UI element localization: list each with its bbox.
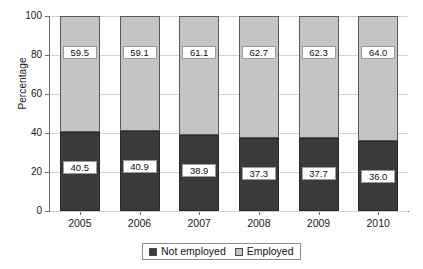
data-label-employed: 59.5 — [63, 46, 97, 59]
bar-segment-employed[interactable] — [60, 16, 100, 132]
gridline — [50, 133, 408, 134]
gridline — [50, 211, 408, 212]
bar-group[interactable]: 59.140.9 — [120, 16, 160, 211]
bar-group[interactable]: 59.540.5 — [60, 16, 100, 211]
x-tick-label: 2005 — [50, 218, 110, 229]
y-tick-label: 100 — [2, 11, 42, 21]
x-tick-label: 2008 — [229, 218, 289, 229]
bar-group[interactable]: 62.737.3 — [239, 16, 279, 211]
legend-label: Not employed — [161, 246, 226, 257]
data-label-employed: 59.1 — [123, 46, 157, 59]
data-label-not-employed: 37.3 — [242, 167, 276, 180]
data-label-not-employed: 37.7 — [302, 167, 336, 180]
data-label-employed: 64.0 — [361, 46, 395, 59]
bar-group[interactable]: 61.138.9 — [179, 16, 219, 211]
stacked-bar-chart: Percentage 020406080100 2005200620072008… — [0, 0, 423, 269]
data-label-employed: 61.1 — [182, 46, 216, 59]
y-tick-label: 40 — [2, 128, 42, 138]
x-tick-label: 2010 — [348, 218, 408, 229]
bar-segment-employed[interactable] — [179, 16, 219, 135]
y-tick-label: 80 — [2, 50, 42, 60]
data-label-not-employed: 40.5 — [63, 161, 97, 174]
y-tick-label: 20 — [2, 167, 42, 177]
legend-swatch-icon — [235, 248, 243, 256]
bar-segment-employed[interactable] — [120, 16, 160, 131]
bar-segment-employed[interactable] — [299, 16, 339, 137]
legend-entry[interactable]: Employed — [235, 246, 294, 257]
x-tick-label: 2009 — [289, 218, 349, 229]
y-tick-label: 0 — [2, 206, 42, 216]
data-label-employed: 62.3 — [302, 46, 336, 59]
gridline — [50, 16, 408, 17]
x-tick-label: 2006 — [110, 218, 170, 229]
gridline — [50, 55, 408, 56]
legend-label: Employed — [247, 246, 294, 257]
y-tick-label: 60 — [2, 89, 42, 99]
data-label-not-employed: 36.0 — [361, 170, 395, 183]
gridline — [50, 172, 408, 173]
data-label-not-employed: 38.9 — [182, 164, 216, 177]
x-tick-label: 2007 — [169, 218, 229, 229]
bar-group[interactable]: 62.337.7 — [299, 16, 339, 211]
gridline — [50, 94, 408, 95]
legend-swatch-icon — [149, 248, 157, 256]
data-label-employed: 62.7 — [242, 46, 276, 59]
plot-area: 59.540.559.140.961.138.962.737.362.337.7… — [50, 16, 408, 211]
bar-segment-employed[interactable] — [358, 16, 398, 141]
bar-segment-employed[interactable] — [239, 16, 279, 138]
bar-group[interactable]: 64.036.0 — [358, 16, 398, 211]
data-label-not-employed: 40.9 — [123, 160, 157, 173]
legend-entry[interactable]: Not employed — [149, 246, 226, 257]
chart-legend: Not employedEmployed — [142, 243, 301, 260]
y-axis-title: Percentage — [17, 29, 28, 139]
